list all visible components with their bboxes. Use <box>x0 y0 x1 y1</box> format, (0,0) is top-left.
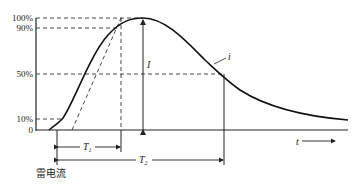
curve-label: i <box>228 51 231 62</box>
lightning-current-diagram: I i 100% 90% 50% 10% 0 T1 T2 t 雷电流 <box>0 0 358 186</box>
amplitude-label: I <box>146 59 151 70</box>
guide-lines <box>36 18 224 130</box>
diagram-caption: 雷电流 <box>36 167 66 179</box>
t2-label: T2 <box>139 154 148 166</box>
curve-leader <box>214 58 226 64</box>
y-tick-10: 10% <box>17 114 34 124</box>
y-tick-0: 0 <box>29 125 34 135</box>
t1-label: T1 <box>83 141 92 153</box>
y-tick-100: 100% <box>12 13 34 23</box>
y-tick-90: 90% <box>17 23 34 33</box>
y-tick-50: 50% <box>17 69 34 79</box>
time-axis-label: t <box>296 136 299 147</box>
